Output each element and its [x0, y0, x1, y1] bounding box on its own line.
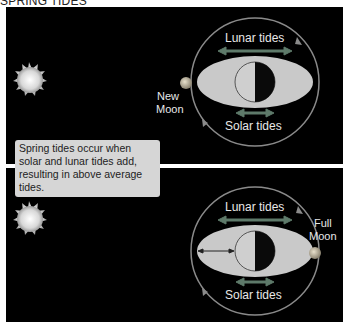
moon-label-line1: Full [314, 217, 332, 229]
spring-tides-caption: Spring tides occur when solar and lunar … [15, 140, 160, 197]
moon-icon [180, 77, 192, 89]
lunar-tides-arrow-icon [218, 47, 292, 55]
moon-label-line2: Moon [309, 230, 337, 242]
lunar-tides-arrow-icon [218, 216, 292, 224]
solar-tides-label: Solar tides [225, 119, 282, 133]
solar-tides-label: Solar tides [225, 288, 282, 302]
solar-tides-arrow-icon [236, 109, 274, 117]
orbit-arrow-icon [202, 288, 208, 296]
lunar-tides-label: Lunar tides [225, 200, 284, 214]
moon-label-line1: New [157, 90, 179, 102]
sun-icon [13, 62, 47, 96]
moon-icon [309, 247, 321, 259]
orbit-arrow-icon [202, 119, 208, 127]
solar-tides-arrow-icon [236, 278, 274, 286]
lunar-tides-label: Lunar tides [225, 31, 284, 45]
earth-icon [235, 231, 275, 271]
sun-icon [13, 201, 47, 235]
earth-icon [235, 62, 275, 102]
moon-label-line2: Moon [156, 103, 184, 115]
